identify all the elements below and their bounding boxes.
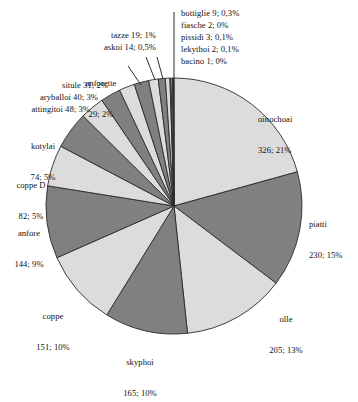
- slice-label-kotylai-name: kotylai: [19, 141, 67, 151]
- slice-label-askoi: askoi 14; 0,5%: [44, 42, 156, 52]
- leader-line-askoi: [146, 57, 155, 80]
- slice-label-skyphoi: skyphoi 165; 10%: [110, 337, 170, 402]
- slice-label-oinochoai-value: 326; 21%: [258, 145, 292, 155]
- slice-label-anforette-value: 29; 2%: [74, 109, 128, 119]
- slice-label-piatti-name: piatti: [309, 219, 343, 229]
- slice-label-coppe-d-value: 82; 5%: [3, 211, 59, 221]
- slice-label-piatti-value: 230; 15%: [309, 250, 343, 260]
- slice-label-anfore-value: 144; 9%: [3, 259, 55, 269]
- slice-label-kotylai: kotylai 74; 5%: [19, 121, 67, 203]
- slice-label-oinochoai-name: oinochoai: [258, 114, 292, 124]
- slice-label-oinochoai: oinochoai 326; 21%: [258, 94, 292, 176]
- slice-label-olle-value: 205; 13%: [262, 345, 310, 355]
- slice-label-coppe-name: coppe: [24, 311, 82, 321]
- slice-label-skyphoi-name: skyphoi: [110, 357, 170, 367]
- slice-label-piatti: piatti 230; 15%: [309, 199, 343, 281]
- slice-label-bacino: bacino 1; 0%: [181, 56, 227, 66]
- slice-label-olle-name: olle: [262, 314, 310, 324]
- slice-label-fiasche: fiasche 2; 0%: [181, 20, 228, 30]
- slice-label-kotylai-value: 74; 5%: [19, 172, 67, 182]
- slice-label-anforette-name: anforette: [74, 78, 128, 88]
- slice-label-tazze: tazze 19; 1%: [44, 30, 156, 40]
- slice-label-olle: olle 205; 13%: [262, 294, 310, 376]
- slice-label-coppe-value: 151; 10%: [24, 342, 82, 352]
- slice-label-skyphoi-value: 165; 10%: [110, 388, 170, 398]
- slice-label-lekythoi: lekythoi 2; 0,1%: [181, 44, 239, 54]
- leader-line-tazze: [157, 57, 163, 79]
- slice-label-bottiglie: bottiglie 9; 0,3%: [181, 8, 239, 18]
- pie-slice-bacino: [173, 78, 174, 206]
- slice-label-pissidi: pissidi 3; 0,1%: [181, 32, 233, 42]
- slice-label-coppe: coppe 151; 10%: [24, 291, 82, 373]
- slice-label-anforette: anforette 29; 2%: [74, 58, 128, 140]
- leader-line-anforette: [128, 66, 141, 85]
